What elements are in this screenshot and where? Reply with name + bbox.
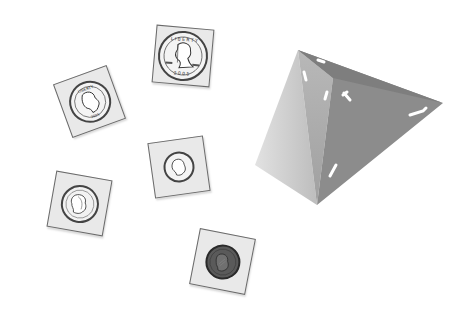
coin-scene: L I B E R T Y 2 0 0 5 LIBERTY 2005 — [0, 0, 473, 311]
four-sided-die-icon — [0, 0, 473, 311]
